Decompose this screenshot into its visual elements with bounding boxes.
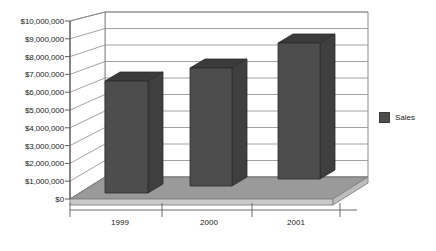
y-tick-label-1000000: $1,000,000: [10, 177, 64, 186]
bar-2000-front-face: [190, 68, 232, 186]
chart-legend: Sales: [379, 112, 415, 123]
bar-2001-front-face: [278, 43, 320, 179]
y-axis: [65, 21, 70, 199]
bar-1999-side-face: [148, 72, 163, 193]
y-tick-label-2000000: $2,000,000: [10, 159, 64, 168]
y-tick-label-10000000: $10,000,000: [10, 17, 64, 26]
y-tick-label-8000000: $8,000,000: [10, 53, 64, 62]
bar-2000-side-face: [232, 59, 247, 186]
bar-2001[interactable]: [278, 34, 335, 179]
bar-2000[interactable]: [190, 59, 247, 186]
x-tick-label-2001: 2001: [272, 218, 320, 227]
legend-color-swatch-sales: [379, 112, 390, 123]
y-tick-label-7000000: $7,000,000: [10, 70, 64, 79]
chart-plot-area: [0, 0, 436, 251]
bar-1999-front-face: [105, 81, 148, 193]
y-tick-label-0: $0: [10, 195, 64, 204]
chart-container: $10,000,000 $9,000,000 $8,000,000 $7,000…: [0, 0, 436, 251]
y-tick-label-6000000: $6,000,000: [10, 88, 64, 97]
x-tick-label-2000: 2000: [185, 218, 233, 227]
y-tick-label-5000000: $5,000,000: [10, 106, 64, 115]
bar-1999[interactable]: [105, 72, 163, 193]
y-tick-label-9000000: $9,000,000: [10, 35, 64, 44]
chart-floor-front-edge: [70, 199, 333, 205]
y-tick-label-4000000: $4,000,000: [10, 124, 64, 133]
x-tick-label-1999: 1999: [96, 218, 144, 227]
legend-label-sales: Sales: [395, 113, 415, 122]
y-tick-label-3000000: $3,000,000: [10, 142, 64, 151]
bar-2001-side-face: [320, 34, 335, 179]
